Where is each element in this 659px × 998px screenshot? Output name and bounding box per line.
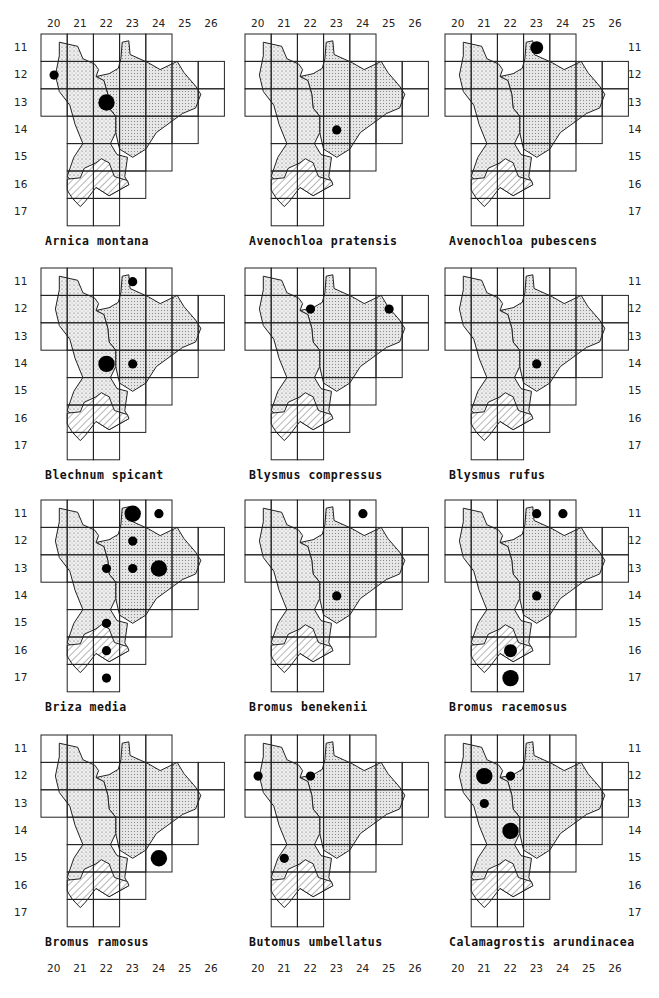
- occurrence-dot: [530, 41, 543, 54]
- column-tick-label: 24: [152, 17, 165, 29]
- column-tick-label: 25: [178, 962, 191, 974]
- row-tick-label: 13: [14, 96, 27, 108]
- occurrence-dot: [254, 772, 263, 781]
- row-tick-label: 13: [628, 797, 641, 809]
- row-tick-label: 15: [628, 851, 641, 863]
- occurrence-dot: [558, 509, 567, 518]
- occurrence-dot: [532, 509, 541, 518]
- row-tick-label: 16: [628, 644, 641, 656]
- row-tick-label: 17: [628, 906, 641, 918]
- occurrence-dot: [332, 591, 341, 600]
- species-caption: Briza media: [45, 700, 127, 714]
- species-caption: Butomus umbellatus: [249, 935, 383, 949]
- column-tick-label: 21: [73, 17, 86, 29]
- column-tick-label: 26: [408, 17, 421, 29]
- row-tick-label: 11: [14, 275, 27, 287]
- row-tick-label: 11: [14, 41, 27, 53]
- occurrence-dot: [102, 646, 111, 655]
- row-tick-label: 15: [14, 616, 27, 628]
- species-caption: Bromus ramosus: [45, 935, 149, 949]
- column-tick-label: 24: [556, 17, 569, 29]
- occurrence-dot: [102, 564, 111, 573]
- column-tick-label: 20: [451, 17, 464, 29]
- species-caption: Blysmus rufus: [449, 468, 546, 482]
- occurrence-dot: [98, 356, 114, 372]
- column-tick-label: 26: [608, 17, 621, 29]
- species-caption: Calamagrostis arundinacea: [449, 935, 635, 949]
- column-tick-label: 21: [477, 17, 490, 29]
- row-tick-label: 11: [628, 507, 641, 519]
- column-tick-label: 26: [408, 962, 421, 974]
- species-caption: Avenochloa pubescens: [449, 234, 597, 248]
- occurrence-dot: [154, 509, 163, 518]
- row-tick-label: 13: [14, 330, 27, 342]
- row-tick-label: 17: [14, 671, 27, 683]
- row-tick-label: 16: [628, 178, 641, 190]
- occurrence-dot: [98, 94, 114, 110]
- column-tick-label: 21: [277, 17, 290, 29]
- row-tick-label: 15: [628, 616, 641, 628]
- row-tick-label: 12: [628, 68, 641, 80]
- row-tick-label: 11: [628, 742, 641, 754]
- column-tick-label: 21: [277, 962, 290, 974]
- column-tick-label: 25: [582, 962, 595, 974]
- row-tick-label: 16: [14, 879, 27, 891]
- column-tick-label: 26: [608, 962, 621, 974]
- row-tick-label: 16: [14, 412, 27, 424]
- row-tick-label: 12: [14, 534, 27, 546]
- column-tick-label: 24: [152, 962, 165, 974]
- row-tick-label: 13: [628, 96, 641, 108]
- column-tick-label: 24: [356, 962, 369, 974]
- row-tick-label: 14: [14, 123, 27, 135]
- column-tick-label: 22: [100, 962, 113, 974]
- species-caption: Avenochloa pratensis: [249, 234, 397, 248]
- row-tick-label: 15: [14, 851, 27, 863]
- column-tick-label: 20: [251, 962, 264, 974]
- occurrence-dot: [128, 277, 137, 286]
- species-caption: Bromus racemosus: [449, 700, 568, 714]
- occurrence-dot: [125, 506, 141, 522]
- row-tick-label: 14: [628, 824, 641, 836]
- column-tick-label: 22: [100, 17, 113, 29]
- column-tick-label: 21: [477, 962, 490, 974]
- occurrence-dot: [504, 644, 517, 657]
- column-tick-label: 20: [47, 962, 60, 974]
- column-tick-label: 26: [204, 17, 217, 29]
- column-tick-label: 22: [304, 962, 317, 974]
- row-tick-label: 17: [628, 205, 641, 217]
- row-tick-label: 13: [628, 562, 641, 574]
- row-tick-label: 15: [14, 150, 27, 162]
- row-tick-label: 11: [628, 41, 641, 53]
- row-tick-label: 12: [14, 302, 27, 314]
- row-tick-label: 17: [628, 671, 641, 683]
- occurrence-dot: [102, 619, 111, 628]
- row-tick-label: 13: [14, 562, 27, 574]
- occurrence-dot: [151, 850, 167, 866]
- occurrence-dot: [532, 591, 541, 600]
- row-tick-label: 12: [628, 302, 641, 314]
- column-tick-label: 23: [330, 17, 343, 29]
- species-caption: Blysmus compressus: [249, 468, 383, 482]
- row-tick-label: 14: [628, 589, 641, 601]
- occurrence-dot: [532, 359, 541, 368]
- column-tick-label: 22: [504, 962, 517, 974]
- occurrence-dot: [50, 71, 59, 80]
- occurrence-dot: [332, 125, 341, 134]
- row-tick-label: 15: [628, 150, 641, 162]
- row-tick-label: 17: [14, 439, 27, 451]
- column-tick-label: 21: [73, 962, 86, 974]
- occurrence-dot: [151, 560, 167, 576]
- row-tick-label: 15: [14, 384, 27, 396]
- row-tick-label: 16: [628, 879, 641, 891]
- row-tick-label: 12: [628, 534, 641, 546]
- row-tick-label: 15: [628, 384, 641, 396]
- column-tick-label: 23: [126, 17, 139, 29]
- species-caption: Bromus benekenii: [249, 700, 368, 714]
- row-tick-label: 14: [14, 824, 27, 836]
- row-tick-label: 13: [628, 330, 641, 342]
- column-tick-label: 25: [382, 17, 395, 29]
- occurrence-dot: [128, 359, 137, 368]
- column-tick-label: 26: [204, 962, 217, 974]
- species-caption: Blechnum spicant: [45, 468, 164, 482]
- column-tick-label: 20: [251, 17, 264, 29]
